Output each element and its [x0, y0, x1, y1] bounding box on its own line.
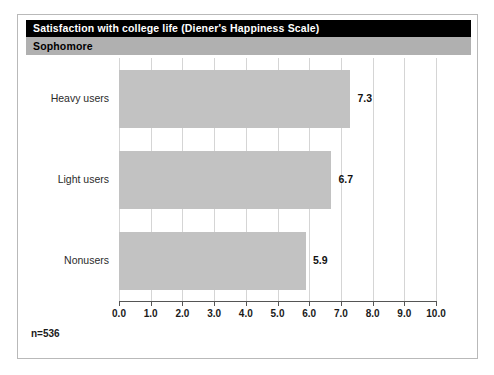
x-tick-mark: [182, 302, 183, 306]
x-tick-mark: [278, 302, 279, 306]
x-tick-mark: [119, 302, 120, 306]
chart-subtitle-band: Sophomore: [26, 37, 471, 55]
gridline: [404, 58, 405, 301]
category-label: Nonusers: [0, 254, 109, 266]
category-label: Heavy users: [0, 92, 109, 104]
chart-title: Satisfaction with college life (Diener's…: [33, 22, 319, 34]
sample-size-note: n=536: [31, 328, 60, 339]
x-tick-mark: [246, 302, 247, 306]
gridline: [373, 58, 374, 301]
category-label: Light users: [0, 173, 109, 185]
plot-area: 7.36.75.9 Heavy usersLight usersNonusers: [119, 58, 436, 301]
x-tick-mark: [151, 302, 152, 306]
bar: [119, 70, 350, 128]
bar-value-label: 5.9: [313, 254, 328, 266]
gridline: [436, 58, 437, 301]
x-tick-mark: [309, 302, 310, 306]
bar: [119, 151, 331, 209]
bar-value-label: 7.3: [357, 92, 372, 104]
x-tick-mark: [373, 302, 374, 306]
bar: [119, 232, 306, 290]
chart-subtitle: Sophomore: [33, 40, 93, 52]
x-tick-label: 10.0: [416, 308, 456, 319]
x-tick-mark: [214, 302, 215, 306]
chart-title-band: Satisfaction with college life (Diener's…: [26, 20, 471, 37]
category-axis-labels: Heavy usersLight usersNonusers: [0, 58, 109, 301]
x-tick-mark: [436, 302, 437, 306]
x-tick-mark: [341, 302, 342, 306]
x-tick-mark: [404, 302, 405, 306]
bar-value-label: 6.7: [338, 173, 353, 185]
chart-figure: Satisfaction with college life (Diener's…: [17, 14, 478, 359]
